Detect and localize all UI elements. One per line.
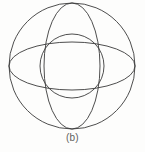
meridian-ellipse xyxy=(44,3,100,129)
equator-ellipse xyxy=(9,42,135,90)
inner-circle xyxy=(40,34,104,98)
figure-panel: (b) xyxy=(0,0,145,152)
sphere-diagram xyxy=(0,0,145,136)
figure-caption: (b) xyxy=(0,132,145,144)
outer-circle xyxy=(9,3,135,129)
